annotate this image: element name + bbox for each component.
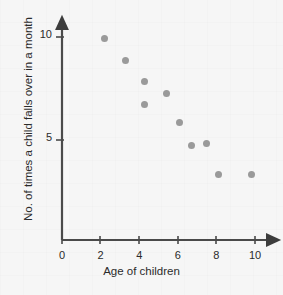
data-point: [141, 101, 148, 108]
data-point: [141, 78, 148, 85]
scatter-chart: 0246810 510 Age of children No. of times…: [0, 0, 283, 295]
y-tick-label: 5: [32, 132, 52, 143]
x-tick-label: 0: [59, 250, 65, 261]
data-point: [163, 90, 170, 97]
x-tick-label: 10: [249, 250, 261, 261]
data-point: [203, 140, 210, 147]
x-tick-label: 8: [213, 250, 219, 261]
x-tick-label: 2: [98, 250, 104, 261]
data-point: [248, 171, 255, 178]
x-tick-label: 4: [136, 250, 142, 261]
data-point: [215, 171, 222, 178]
y-tick-label: 10: [32, 29, 52, 40]
data-point: [122, 57, 129, 64]
x-tick-label: 6: [175, 250, 181, 261]
data-point: [176, 119, 183, 126]
y-axis-title: No. of times a child falls over in a mon…: [22, 21, 34, 221]
x-axis-title: Age of children: [0, 265, 283, 277]
data-point: [101, 35, 108, 42]
data-point: [188, 142, 195, 149]
